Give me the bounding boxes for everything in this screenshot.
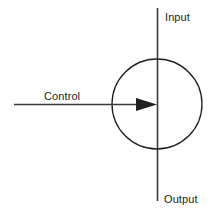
- control-arrow-head-icon: [136, 98, 157, 111]
- input-label: Input: [165, 11, 190, 23]
- output-label: Output: [164, 193, 198, 205]
- control-label: Control: [44, 90, 80, 102]
- process-node-diagram: Input Output Control: [0, 0, 215, 213]
- diagram-canvas: Input Output Control: [0, 0, 215, 213]
